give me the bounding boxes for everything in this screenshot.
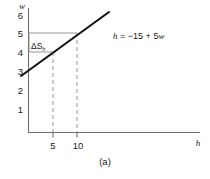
y-axis-label: w [19, 1, 25, 11]
y-tick-label-5: 5 [18, 28, 23, 39]
figure-a: 6 5 4 3 2 1 w 5 10 h [0, 0, 210, 179]
figure-caption: (a) [0, 156, 210, 167]
y-tick-label-6: 6 [18, 10, 23, 21]
chart-plot-area: 6 5 4 3 2 1 w 5 10 h [0, 0, 210, 179]
x-tick-label-5: 5 [50, 140, 55, 151]
equation-rhs-var: w [158, 31, 164, 41]
equation-label: h = −15 + 5w [113, 31, 164, 41]
delta-s-subscript: h [42, 46, 45, 52]
x-axis-label: h [196, 138, 201, 148]
y-tick-label-1: 1 [18, 104, 23, 115]
delta-s-annotation: ΔSh [31, 41, 45, 52]
x-tick-label-10: 10 [73, 140, 84, 151]
y-tick-label-4: 4 [18, 47, 23, 58]
y-tick-label-2: 2 [18, 85, 23, 96]
delta-s-label: ΔS [31, 41, 43, 51]
equation-rhs-const: −15 [128, 31, 143, 41]
line-chart-svg: 6 5 4 3 2 1 w 5 10 h [0, 0, 210, 179]
